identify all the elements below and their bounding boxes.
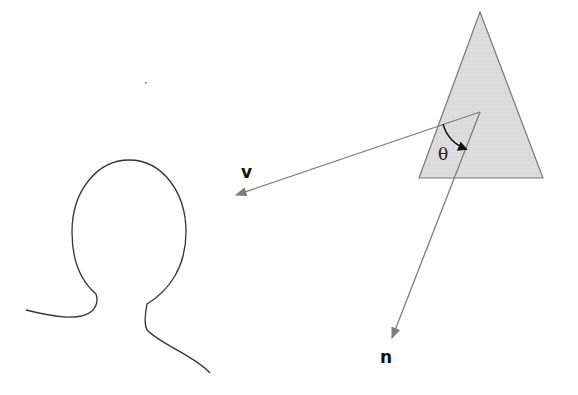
viewer-head-outline: [26, 160, 210, 373]
stray-dot: [145, 82, 147, 84]
angle-theta-label: θ: [438, 144, 448, 164]
normal-vector-label: n: [380, 347, 392, 367]
view-vector-label: v: [241, 162, 252, 182]
diagram-canvas: θ v n: [0, 0, 578, 395]
